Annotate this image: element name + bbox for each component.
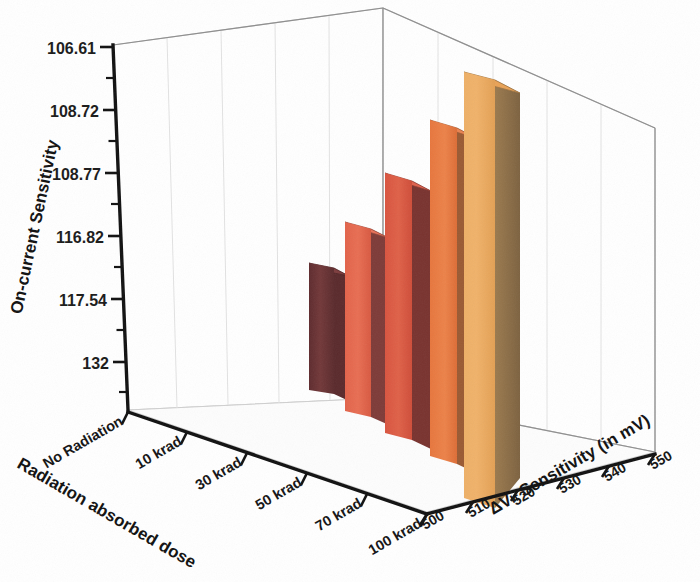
chart-canvas: 106.61 108.72 108.77 116.82 117.54 132 O… — [0, 0, 700, 582]
paper-texture — [0, 0, 700, 582]
three-d-bar-chart: 106.61 108.72 108.77 116.82 117.54 132 O… — [0, 0, 700, 582]
